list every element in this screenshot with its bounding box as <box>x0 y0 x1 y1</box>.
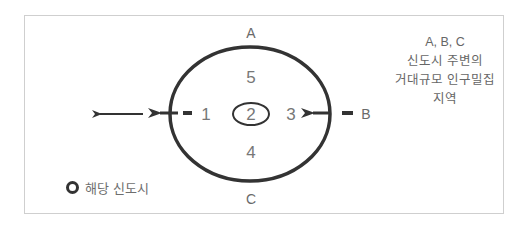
zone-4: 4 <box>246 144 255 161</box>
note-line-3: 거대규모 인구밀집지역 <box>390 71 500 109</box>
zone-1: 1 <box>201 106 210 123</box>
zone-2: 2 <box>246 106 255 123</box>
note-line-2: 신도시 주변의 <box>390 52 500 71</box>
note-line-1: A, B, C <box>390 33 500 52</box>
ring-icon <box>66 181 79 194</box>
note-text: A, B, C 신도시 주변의 거대규모 인구밀집지역 <box>390 33 500 109</box>
legend: 해당 신도시 <box>66 178 149 197</box>
zone-3: 3 <box>286 106 295 123</box>
legend-label: 해당 신도시 <box>85 178 149 197</box>
zone-5: 5 <box>246 69 255 86</box>
label-b: B <box>361 107 370 121</box>
label-a: A <box>246 26 255 40</box>
label-c: C <box>246 192 256 206</box>
